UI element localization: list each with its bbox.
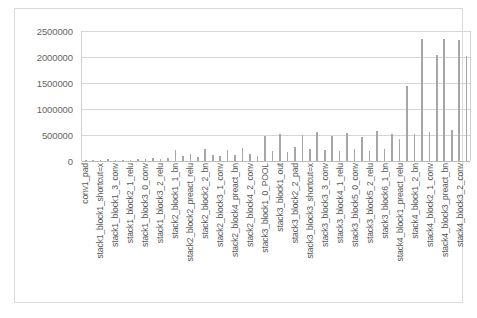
bar[interactable] (458, 40, 460, 161)
bar[interactable] (436, 55, 438, 161)
bar-cell (306, 31, 313, 161)
bar-cell (418, 31, 425, 161)
bar-cell (396, 31, 403, 161)
bar[interactable] (212, 155, 214, 161)
x-axis-cell: conv1_pad (81, 163, 89, 309)
bar[interactable] (272, 151, 274, 161)
bar-cell (216, 31, 223, 161)
chart-screenshot: 25000002000000150000010000005000000 conv… (0, 0, 477, 318)
bar-cell (127, 31, 134, 161)
bar[interactable] (100, 160, 102, 161)
x-axis-cell: stack1_block1_3_conv (111, 163, 119, 309)
bar-cell (231, 31, 238, 161)
bar[interactable] (167, 158, 169, 161)
x-axis-cell: stack1_block3_0_conv (141, 163, 149, 309)
bar[interactable] (421, 39, 423, 161)
x-axis-cell: stack3_block6_1_bn (381, 163, 389, 309)
bar[interactable] (264, 136, 266, 161)
bar-cell (209, 31, 216, 161)
x-axis-cell: stack3_block5_2_relu (366, 163, 374, 309)
x-axis-cell: stack4_block1_preact_relu (396, 163, 404, 309)
bar[interactable] (287, 152, 289, 161)
bar[interactable] (227, 150, 229, 161)
bar[interactable] (204, 149, 206, 161)
bar[interactable] (85, 160, 87, 161)
bar[interactable] (309, 149, 311, 161)
bar-cell (463, 31, 470, 161)
bar-cell (172, 31, 179, 161)
bar[interactable] (466, 56, 468, 161)
bar[interactable] (302, 135, 304, 161)
bar[interactable] (391, 134, 393, 161)
bar[interactable] (130, 160, 132, 161)
x-axis-cell: stack2_block2_preact_relu (186, 163, 194, 309)
bar[interactable] (219, 156, 221, 161)
bar[interactable] (197, 157, 199, 161)
bar[interactable] (414, 134, 416, 161)
bar[interactable] (115, 160, 117, 161)
bar[interactable] (369, 151, 371, 161)
bar[interactable] (316, 132, 318, 161)
bar[interactable] (257, 156, 259, 161)
bar[interactable] (339, 151, 341, 161)
bar[interactable] (175, 150, 177, 161)
bar[interactable] (160, 159, 162, 161)
bar[interactable] (354, 149, 356, 161)
bar-cell (321, 31, 328, 161)
bar-cell (433, 31, 440, 161)
bar[interactable] (406, 86, 408, 161)
x-axis-cell: stack2_block4_2_conv (246, 163, 254, 309)
bar-cell (224, 31, 231, 161)
bar[interactable] (324, 150, 326, 161)
bar-cell (157, 31, 164, 161)
bar[interactable] (92, 160, 94, 161)
bar[interactable] (145, 159, 147, 161)
bar[interactable] (376, 131, 378, 161)
bar[interactable] (429, 132, 431, 161)
bar[interactable] (361, 137, 363, 161)
bar[interactable] (346, 133, 348, 161)
bar-cell (403, 31, 410, 161)
x-axis-cell: stack4_block3_preact_bn (441, 163, 449, 309)
x-axis-cell: stack4_block3_2_conv (456, 163, 464, 309)
bar[interactable] (152, 158, 154, 161)
x-axis-cell: stack3_block3_3_conv (321, 163, 329, 309)
bar[interactable] (443, 39, 445, 161)
x-axis-cell: stack3_block1_out (276, 163, 284, 309)
bar[interactable] (182, 156, 184, 161)
bar-cell (343, 31, 350, 161)
bar[interactable] (122, 160, 124, 161)
y-axis-tick-label: 2000000 (37, 52, 73, 63)
bar-cell (239, 31, 246, 161)
bar-cell (381, 31, 388, 161)
bar[interactable] (399, 139, 401, 161)
plot-area (81, 31, 471, 161)
bar[interactable] (137, 159, 139, 161)
y-axis-tick-label: 500000 (42, 130, 73, 141)
chart-frame: 25000002000000150000010000005000000 conv… (14, 8, 463, 303)
bar-cell (254, 31, 261, 161)
bar[interactable] (294, 147, 296, 161)
bar-cell (179, 31, 186, 161)
bar[interactable] (384, 149, 386, 161)
bar-cell (142, 31, 149, 161)
bar[interactable] (190, 154, 192, 161)
x-axis-cell: stack1_block1_shortcut=x (96, 163, 104, 309)
bar[interactable] (249, 154, 251, 161)
x-axis-cell: stack3_block2_2_pad (291, 163, 299, 309)
bar-cell (455, 31, 462, 161)
x-axis-cell: stack1_block2_1_relu (126, 163, 134, 309)
bar-series (82, 31, 470, 161)
bar-cell (261, 31, 268, 161)
bar[interactable] (451, 130, 453, 161)
bar[interactable] (234, 155, 236, 161)
x-axis-cell: stack3_block3_shortcut=x (306, 163, 314, 309)
bar-cell (112, 31, 119, 161)
x-axis-cell: stack3_block4_1_relu (336, 163, 344, 309)
bar-cell (194, 31, 201, 161)
bar[interactable] (107, 159, 109, 161)
bar[interactable] (242, 148, 244, 161)
bar[interactable] (331, 136, 333, 161)
bar[interactable] (279, 134, 281, 161)
x-axis-labels: conv1_padstack1_block1_shortcut=xstack1_… (81, 163, 471, 309)
